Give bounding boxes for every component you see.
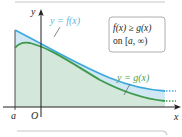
annotation-line-2: on [a, ∞) xyxy=(113,36,147,47)
y-axis-label: y xyxy=(30,6,36,17)
annotation-line-1: f(x) ≥ g(x) xyxy=(113,23,151,34)
annotation-line-2-suffix: , ∞) xyxy=(133,36,148,47)
bottom-frame-line xyxy=(17,131,167,135)
curve-g-label: y = g(x) xyxy=(116,72,150,84)
curve-f-leader xyxy=(54,27,60,37)
figure-comparison-test: y x a O y = f(x) y = g(x) f(x) ≥ g(x) on… xyxy=(0,0,182,137)
x-axis-label: x xyxy=(173,111,179,122)
annotation-line-2-prefix: on [ xyxy=(113,36,128,46)
origin-label: O xyxy=(31,110,38,121)
a-label: a xyxy=(11,110,16,121)
curve-f-label: y = f(x) xyxy=(49,15,81,27)
